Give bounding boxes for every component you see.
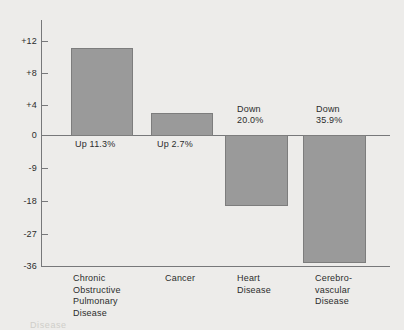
y-tick-mark <box>42 105 48 106</box>
y-tick-mark <box>42 135 48 136</box>
y-tick-label: -36 <box>23 261 37 271</box>
y-tick-label: 0 <box>32 130 37 140</box>
category-label-cerebrovascular-disease: Cerebro- vascular Disease <box>315 273 352 308</box>
value-label-chronic-obstructive-pulmonary-disease: Up 11.3% <box>75 139 115 150</box>
y-tick-label: +8 <box>26 68 37 78</box>
y-tick-mark <box>42 234 48 235</box>
y-tick-label: +4 <box>26 100 37 110</box>
y-tick-mark <box>42 266 48 267</box>
x-axis-line <box>41 266 390 267</box>
bar-cancer <box>151 113 213 136</box>
y-axis-line <box>41 20 42 267</box>
y-tick-label: -9 <box>29 163 37 173</box>
bar-heart-disease <box>225 135 288 206</box>
figure-caption: Disease <box>30 320 67 330</box>
category-label-chronic-obstructive-pulmonary-disease: Chronic Obstructive Pulmonary Disease <box>73 273 121 319</box>
y-tick-mark <box>42 201 48 202</box>
y-tick-label: -18 <box>23 196 37 206</box>
y-tick-mark <box>42 168 48 169</box>
bar-chart: +12 +8 +4 0 -9 -18 -27 -36 Up 11.3% Up 2… <box>0 0 404 330</box>
y-tick-mark <box>42 73 48 74</box>
bar-cerebrovascular-disease <box>303 135 366 263</box>
category-label-cancer: Cancer <box>165 273 195 285</box>
category-label-heart-disease: Heart Disease <box>237 273 271 296</box>
bar-chronic-obstructive-pulmonary-disease <box>71 48 133 136</box>
value-label-heart-disease: Down 20.0% <box>237 104 264 126</box>
y-tick-mark <box>42 41 48 42</box>
value-label-cancer: Up 2.7% <box>157 139 193 150</box>
value-label-cerebrovascular-disease: Down 35.9% <box>316 104 343 126</box>
y-tick-label: +12 <box>21 36 37 46</box>
y-tick-label: -27 <box>23 229 37 239</box>
